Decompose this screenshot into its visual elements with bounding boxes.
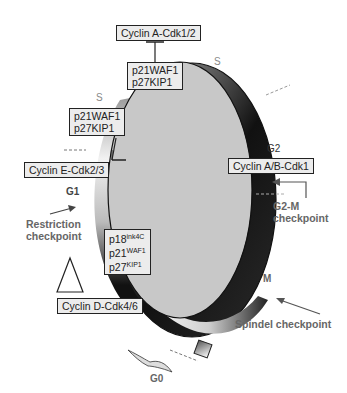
g0-shape-icon (128, 350, 172, 372)
g2m-checkpoint-label: G2-M checkpoint (273, 200, 328, 224)
cell-cycle-ring (0, 0, 347, 393)
cyclin-e-cdk23-box: Cyclin E-Cdk2/3 (24, 162, 109, 178)
inhibitor-p21: p21WAF1 (132, 64, 178, 76)
phase-g0: G0 (150, 373, 163, 384)
top-inhibitor-box: p21WAF1 p27KIP1 (127, 62, 183, 90)
inhibitor-p27: p27KIP1 (132, 76, 178, 88)
restriction-checkpoint-label: Restriction checkpoint (26, 218, 81, 242)
phase-m: M (263, 273, 271, 284)
inhibitor-p21: p21WAF1 (109, 245, 146, 259)
spindel-checkpoint-label: Spindel checkpoint (235, 318, 331, 330)
inhibitor-p18: p18ink4C (109, 231, 146, 245)
cyclin-a-cdk12-box: Cyclin A-Cdk1/2 (116, 25, 201, 41)
cyclin-ab-cdk1-box: Cyclin A/B-Cdk1 (228, 158, 314, 174)
inner-disc (108, 62, 252, 318)
phase-s-right: S (214, 56, 221, 67)
left-inhibitor-box: p21WAF1 p27KIP1 (69, 108, 125, 136)
phase-s-left: S (96, 92, 103, 103)
inhibitor-p27: p27KIP1 (74, 122, 120, 134)
phase-g2: G2 (267, 143, 280, 154)
inhibitor-p21: p21WAF1 (74, 110, 120, 122)
phase-g1: G1 (66, 186, 79, 197)
inhibitor-p27: p27KIP1 (109, 259, 146, 273)
quiescent-square-icon (194, 340, 212, 358)
g1-inhibitor-box: p18ink4C p21WAF1 p27KIP1 (104, 229, 151, 275)
cyclin-d-cdk46-box: Cyclin D-Cdk4/6 (57, 298, 143, 314)
triangle-icon (57, 258, 83, 292)
